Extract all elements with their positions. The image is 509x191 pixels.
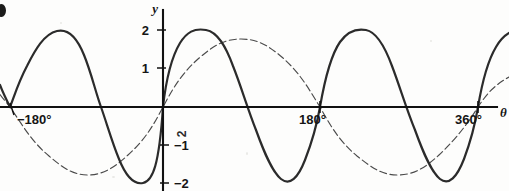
stray-digit-mark: 2 xyxy=(175,130,189,137)
y-tick-label-1: 1 xyxy=(142,61,149,76)
trigonometric-graph-figure: 2 1 −1 −2 2 −180° 180° 360° y θ xyxy=(0,0,509,191)
plot-canvas: 2 1 −1 −2 2 −180° 180° 360° y θ xyxy=(0,0,509,191)
x-tick-label-180: 180° xyxy=(299,112,326,127)
x-tick-label-minus180: −180° xyxy=(17,112,51,127)
y-tick-label-2: 2 xyxy=(142,23,149,38)
x-axis-label: θ xyxy=(500,105,507,120)
y-axis-label: y xyxy=(150,1,158,16)
x-tick-label-360: 360° xyxy=(455,112,482,127)
y-tick-label-minus2: −2 xyxy=(174,176,189,191)
y-tick-label-minus1: −1 xyxy=(174,138,189,153)
